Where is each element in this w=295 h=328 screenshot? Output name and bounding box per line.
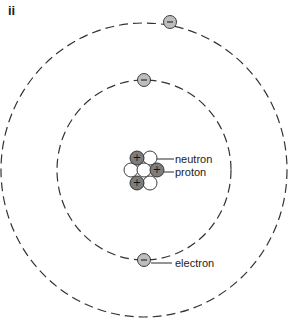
proton-label: proton	[175, 166, 206, 178]
plus-sign-icon: +	[153, 164, 161, 175]
plus-sign-icon: +	[133, 177, 141, 188]
electron-particle	[138, 74, 151, 87]
electrons	[138, 16, 177, 267]
proton-particle: +	[130, 151, 144, 165]
panel-label: ii	[8, 3, 15, 18]
electron-particle	[164, 16, 177, 29]
neutron-particle	[143, 176, 157, 190]
electron-particle	[138, 254, 151, 267]
atom-svg: ii +++ neutron proton electron	[0, 0, 295, 328]
proton-particle: +	[150, 163, 164, 177]
proton-particle: +	[130, 176, 144, 190]
atom-diagram: ii +++ neutron proton electron	[0, 0, 295, 328]
electron-label: electron	[175, 257, 214, 269]
nucleus: +++	[124, 151, 164, 190]
plus-sign-icon: +	[133, 152, 141, 163]
neutron-label: neutron	[175, 153, 212, 165]
